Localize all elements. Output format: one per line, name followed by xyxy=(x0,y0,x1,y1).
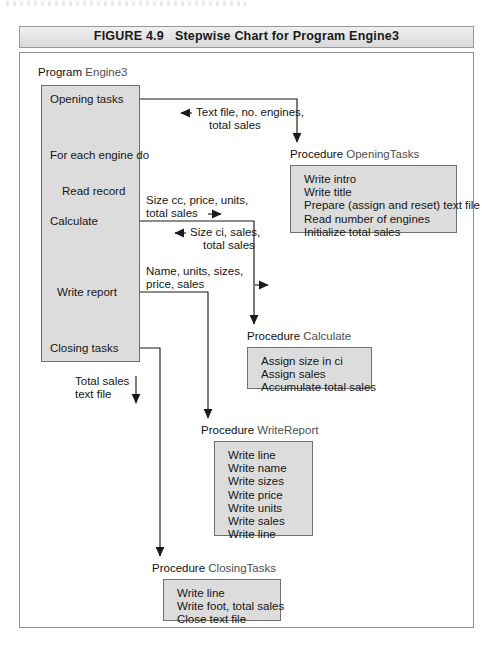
procedure-statement: Close text file xyxy=(177,613,270,626)
procedure-box-closingtasks: Write line Write foot, total sales Close… xyxy=(163,579,281,621)
annotation-line: total sales xyxy=(146,207,248,220)
procedure-name: ClosingTasks xyxy=(208,562,276,574)
procedure-box-calculate: Assign size in ci Assign sales Accumulat… xyxy=(247,347,372,389)
procedure-statement: Initialize total sales xyxy=(304,226,446,239)
figure-title: Stepwise Chart for Program Engine3 xyxy=(175,29,399,43)
program-step-for-each-engine: For each engine do xyxy=(50,149,149,161)
procedure-statement: Write sizes xyxy=(228,475,302,488)
annotation-line: Size cc, price, units, xyxy=(146,194,248,207)
annotation-closing-send: Total sales text file xyxy=(75,375,129,402)
procedure-keyword: Procedure xyxy=(152,562,205,574)
program-step-write-report: Write report xyxy=(57,286,117,298)
figure-caption-bar: FIGURE 4.9 Stepwise Chart for Program En… xyxy=(19,26,474,48)
procedure-statement: Write foot, total sales xyxy=(177,600,270,613)
procedure-statement: Write units xyxy=(228,502,302,515)
program-step-read-record: Read record xyxy=(62,185,125,197)
procedure-title-openingtasks: Procedure OpeningTasks xyxy=(290,148,419,160)
annotation-line: total sales xyxy=(190,239,260,252)
program-step-closing-tasks: Closing tasks xyxy=(50,342,118,354)
annotation-line: text file xyxy=(75,388,129,401)
procedure-name: WriteReport xyxy=(257,424,318,436)
procedure-statement: Accumulate total sales xyxy=(261,381,361,394)
procedure-statement: Assign size in ci xyxy=(261,355,361,368)
annotation-line: price, sales xyxy=(146,278,243,291)
program-label: Program Engine3 xyxy=(38,66,128,78)
procedure-statement: Write line xyxy=(228,528,302,541)
procedure-title-closingtasks: Procedure ClosingTasks xyxy=(152,562,276,574)
procedure-statement: Write line xyxy=(228,449,302,462)
procedure-statement: Write price xyxy=(228,489,302,502)
program-name: Engine3 xyxy=(85,66,127,78)
procedure-statement: Write intro xyxy=(304,173,446,186)
procedure-statement: Write title xyxy=(304,186,446,199)
program-keyword: Program xyxy=(38,66,82,78)
procedure-statement: Write sales xyxy=(228,515,302,528)
annotation-line: Size ci, sales, xyxy=(190,226,260,239)
annotation-line: Name, units, sizes, xyxy=(146,265,243,278)
procedure-box-openingtasks: Write intro Write title Prepare (assign … xyxy=(290,165,457,233)
procedure-statement: Write name xyxy=(228,462,302,475)
annotation-line: total sales xyxy=(196,119,304,132)
procedure-statement: Read number of engines xyxy=(304,213,446,226)
procedure-statement: Write line xyxy=(177,587,270,600)
procedure-box-writereport: Write line Write name Write sizes Write … xyxy=(214,441,313,536)
procedure-name: OpeningTasks xyxy=(346,148,419,160)
annotation-line: Text file, no. engines, xyxy=(196,106,304,119)
program-step-calculate: Calculate xyxy=(50,215,98,227)
procedure-keyword: Procedure xyxy=(290,148,343,160)
annotation-opening-return: Text file, no. engines, total sales xyxy=(196,106,304,133)
procedure-statement: Prepare (assign and reset) text file xyxy=(304,199,446,212)
procedure-name: Calculate xyxy=(303,330,351,342)
procedure-title-writereport: Procedure WriteReport xyxy=(201,424,318,436)
procedure-keyword: Procedure xyxy=(201,424,254,436)
figure-number: FIGURE 4.9 xyxy=(94,29,164,43)
procedure-statement: Assign sales xyxy=(261,368,361,381)
procedure-title-calculate: Procedure Calculate xyxy=(247,330,351,342)
annotation-line: Total sales xyxy=(75,375,129,388)
annotation-calculate-return: Size ci, sales, total sales xyxy=(190,226,260,253)
procedure-keyword: Procedure xyxy=(247,330,300,342)
annotation-writereport-send: Name, units, sizes, price, sales xyxy=(146,265,243,292)
annotation-calculate-send: Size cc, price, units, total sales xyxy=(146,194,248,221)
program-step-opening-tasks: Opening tasks xyxy=(50,93,124,105)
page-top-artifact xyxy=(6,1,246,6)
